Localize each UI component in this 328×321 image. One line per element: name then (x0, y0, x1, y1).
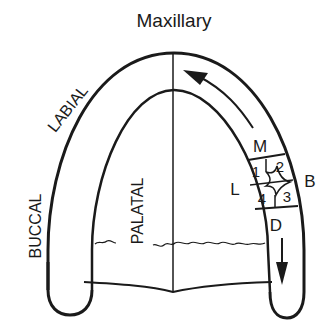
palatal-label: PALATAL (129, 178, 146, 245)
lingual-label: L (230, 180, 239, 199)
buccal-label: BUCCAL (27, 193, 44, 258)
quadrant-2-label: 2 (276, 158, 284, 175)
distal-arrowhead-icon (276, 262, 288, 285)
gumline-center (153, 242, 265, 246)
maxillary-arch-diagram: Maxillary 1 2 3 4 M L B D LABIAL BUCCAL … (0, 0, 328, 321)
quadrant-1-label: 1 (252, 163, 260, 180)
inner-arch-outline (92, 90, 270, 292)
mesial-label: M (253, 137, 267, 156)
palate-bottom-edge (84, 282, 272, 292)
left-arch-end (48, 262, 92, 315)
gumline-left (95, 240, 116, 244)
diagram-title: Maxillary (137, 10, 212, 31)
quadrant-3-label: 3 (283, 188, 291, 205)
buccal-short-label: B (304, 172, 315, 191)
mesial-arrowhead-icon (183, 70, 208, 85)
quadrant-4-label: 4 (258, 190, 266, 207)
distal-label: D (270, 216, 282, 235)
